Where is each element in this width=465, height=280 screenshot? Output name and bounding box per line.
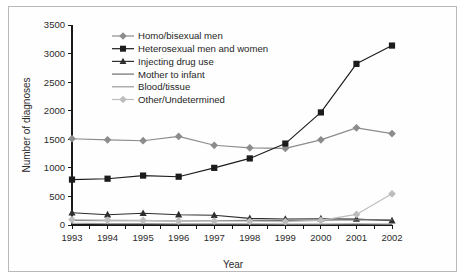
data-point [317, 136, 325, 144]
y-tick-label: 3500 [44, 19, 65, 30]
data-point [210, 141, 218, 149]
data-point [69, 176, 75, 182]
y-tick-label: 2500 [44, 77, 65, 88]
series-line [72, 128, 392, 149]
x-tick-label: 2002 [381, 232, 402, 243]
y-axis-title: Number of diagnoses [21, 77, 32, 172]
legend-label: Other/Undetermined [138, 94, 225, 105]
legend-label: Blood/tissue [138, 81, 190, 92]
data-point [104, 176, 110, 182]
legend-item[interactable]: Homo/bisexual men [112, 30, 223, 41]
data-point [211, 165, 217, 171]
legend-label: Heterosexual men and women [138, 43, 268, 54]
y-tick-label: 2000 [44, 105, 65, 116]
axes-group [68, 25, 392, 229]
data-point [246, 144, 254, 152]
series-group [68, 42, 396, 225]
x-tick-label: 2000 [310, 232, 331, 243]
y-tick-label: 1500 [44, 134, 65, 145]
y-tick-label: 1000 [44, 162, 65, 173]
series-5 [72, 223, 392, 224]
legend-marker-diamond-icon [119, 32, 127, 40]
data-point [175, 133, 183, 141]
series-1 [68, 124, 396, 152]
legend-item[interactable]: Blood/tissue [112, 81, 190, 92]
line-chart: 0500100015002000250030003500 19931994199… [0, 0, 465, 280]
series-2 [69, 42, 395, 182]
data-point [176, 174, 182, 180]
legend-item[interactable]: Heterosexual men and women [112, 43, 268, 54]
legend-marker-diamond-icon [119, 96, 127, 104]
data-point [68, 209, 75, 216]
legend-label: Homo/bisexual men [138, 30, 223, 41]
data-point [282, 140, 288, 146]
legend-item[interactable]: Mother to infant [112, 69, 205, 80]
data-point [388, 130, 396, 138]
data-point [104, 136, 112, 144]
legend-item[interactable]: Other/Undetermined [112, 94, 225, 105]
series-line [72, 46, 392, 180]
legend-label: Mother to infant [138, 69, 205, 80]
x-tick-label: 1996 [168, 232, 189, 243]
x-axis-title: Year [223, 259, 244, 270]
legend-label: Injecting drug use [138, 56, 214, 67]
data-point [139, 137, 147, 145]
x-tick-labels: 1993199419951996199719981999200020012002 [61, 232, 402, 243]
x-tick-label: 1997 [204, 232, 225, 243]
x-tick-label: 1994 [97, 232, 118, 243]
data-point [140, 172, 146, 178]
x-tick-label: 1993 [61, 232, 82, 243]
data-point [388, 190, 396, 198]
series-line [72, 223, 392, 224]
data-point [389, 42, 395, 48]
y-tick-label: 3000 [44, 48, 65, 59]
data-point [353, 124, 361, 132]
y-tick-labels: 0500100015002000250030003500 [44, 19, 65, 230]
data-point [140, 209, 147, 216]
x-tick-label: 2001 [346, 232, 367, 243]
data-point [318, 109, 324, 115]
data-point [247, 155, 253, 161]
x-tick-label: 1998 [239, 232, 260, 243]
legend-marker-square-icon [120, 46, 126, 52]
y-tick-label: 500 [49, 191, 65, 202]
legend-item[interactable]: Injecting drug use [112, 56, 214, 67]
data-point [317, 217, 325, 225]
x-tick-label: 1999 [275, 232, 296, 243]
y-tick-label: 0 [60, 219, 65, 230]
x-tick-label: 1995 [133, 232, 154, 243]
data-point [353, 211, 361, 219]
figure-container: 0500100015002000250030003500 19931994199… [0, 0, 465, 280]
data-point [68, 135, 76, 143]
data-point [353, 61, 359, 67]
chart-legend: Homo/bisexual menHeterosexual men and wo… [112, 30, 268, 105]
data-point [68, 216, 76, 224]
